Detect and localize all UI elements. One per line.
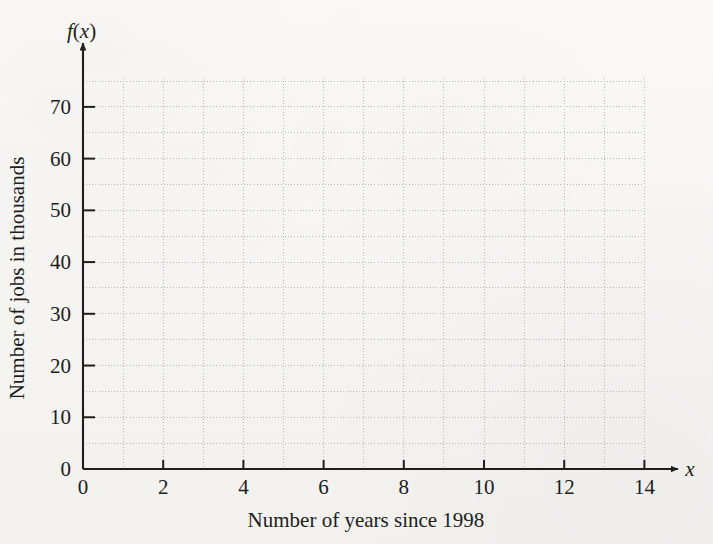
- y-axis-tick-labels: 010203040506070: [50, 95, 71, 481]
- y-axis-tick-label: 30: [50, 302, 71, 326]
- y-axis-tick-label: 40: [50, 250, 71, 274]
- x-axis-tick-label: 14: [634, 475, 656, 499]
- y-axis-tick-label: 50: [50, 198, 71, 222]
- y-axis-tick-label: 0: [61, 457, 72, 481]
- coordinate-grid-figure: 02468101214 010203040506070 x f(x) Numbe…: [0, 0, 713, 544]
- x-axis-title: Number of years since 1998: [248, 508, 485, 532]
- x-axis-ticks: [163, 460, 644, 469]
- x-axis-tick-label: 6: [318, 475, 329, 499]
- y-axis-name-label: f(x): [67, 19, 96, 43]
- y-axis-tick-label: 70: [50, 95, 71, 119]
- y-axis-ticks: [83, 107, 95, 417]
- y-axis-title: Number of jobs in thousands: [5, 157, 29, 400]
- x-axis-tick-label: 0: [78, 475, 89, 499]
- grid-lines-horizontal: [83, 81, 644, 469]
- y-axis-tick-label: 20: [50, 354, 71, 378]
- plot-svg: 02468101214 010203040506070 x f(x) Numbe…: [0, 0, 713, 544]
- y-axis-tick-label: 10: [50, 405, 71, 429]
- grid-lines-vertical: [83, 78, 644, 469]
- x-axis-tick-labels: 02468101214: [78, 475, 656, 499]
- x-axis-tick-label: 2: [158, 475, 169, 499]
- y-axis-tick-label: 60: [50, 147, 71, 171]
- x-axis-tick-label: 8: [399, 475, 410, 499]
- x-axis-tick-label: 4: [238, 475, 249, 499]
- x-axis-tick-label: 12: [554, 475, 575, 499]
- x-axis-name-label: x: [684, 457, 695, 481]
- x-axis-tick-label: 10: [474, 475, 495, 499]
